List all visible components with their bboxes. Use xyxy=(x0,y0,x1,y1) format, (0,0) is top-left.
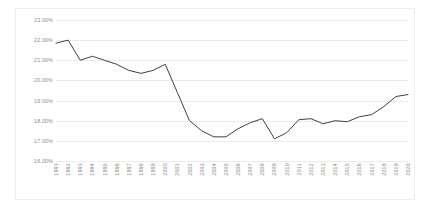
y-axis-tick-label: 23.00% xyxy=(34,17,53,23)
x-axis-tick-label: 2002 xyxy=(187,163,193,176)
x-axis-tick-label: 1992 xyxy=(65,163,71,176)
x-axis: 1991199219931994199519961997199819992000… xyxy=(56,161,408,201)
y-axis-tick-label: 22.00% xyxy=(34,37,53,43)
y-axis-tick-label: 18.00% xyxy=(34,118,53,124)
x-axis-tick-label: 2018 xyxy=(381,163,387,176)
x-axis-tick-label: 1991 xyxy=(53,163,59,176)
x-axis-tick-label: 1998 xyxy=(138,163,144,176)
x-axis-tick-label: 1993 xyxy=(77,163,83,176)
x-axis-tick-label: 2019 xyxy=(393,163,399,176)
x-axis-tick-label: 2014 xyxy=(332,163,338,176)
x-axis-tick-label: 1997 xyxy=(126,163,132,176)
x-axis-tick-label: 2013 xyxy=(320,163,326,176)
line-series xyxy=(56,20,408,161)
y-axis-tick-label: 16.00% xyxy=(34,158,53,164)
chart-plot-wrapper: 23.00%22.00%21.00%20.00%19.00%18.00%17.0… xyxy=(16,9,416,201)
x-axis-tick-label: 2017 xyxy=(369,163,375,176)
chart-figure: 23.00%22.00%21.00%20.00%19.00%18.00%17.0… xyxy=(15,8,415,200)
x-axis-tick-label: 2006 xyxy=(235,163,241,176)
x-axis-tick-label: 2000 xyxy=(162,163,168,176)
x-axis-tick-label: 2020 xyxy=(405,163,411,176)
x-axis-tick-label: 1996 xyxy=(114,163,120,176)
x-axis-tick-label: 1994 xyxy=(89,163,95,176)
x-axis-tick-label: 2009 xyxy=(271,163,277,176)
x-axis-tick-label: 2010 xyxy=(284,163,290,176)
x-axis-tick-label: 2011 xyxy=(296,163,302,175)
x-axis-tick-label: 2008 xyxy=(259,163,265,176)
x-axis-tick-label: 1995 xyxy=(102,163,108,176)
y-axis-tick-label: 17.00% xyxy=(34,138,53,144)
x-axis-tick-label: 2003 xyxy=(199,163,205,176)
x-axis-tick-label: 2016 xyxy=(356,163,362,176)
x-axis-tick-label: 1999 xyxy=(150,163,156,176)
y-axis-tick-label: 20.00% xyxy=(34,77,53,83)
x-axis-tick-label: 2007 xyxy=(247,163,253,176)
plot-area xyxy=(56,20,408,161)
x-axis-tick-label: 2015 xyxy=(344,163,350,176)
y-axis-tick-label: 21.00% xyxy=(34,57,53,63)
series-polyline xyxy=(56,40,408,139)
y-axis: 23.00%22.00%21.00%20.00%19.00%18.00%17.0… xyxy=(16,9,56,201)
x-axis-tick-label: 2004 xyxy=(211,163,217,176)
x-axis-tick-label: 2005 xyxy=(223,163,229,176)
y-axis-tick-label: 19.00% xyxy=(34,98,53,104)
x-axis-tick-label: 2001 xyxy=(174,163,180,176)
x-axis-tick-label: 2012 xyxy=(308,163,314,176)
